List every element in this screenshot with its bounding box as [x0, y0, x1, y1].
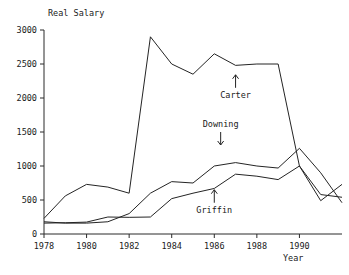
x-tick-label: 1982 [119, 241, 139, 251]
series-line-griffin [44, 166, 342, 223]
y-tick-label: 1000 [17, 161, 37, 171]
annotation-label-downing: Downing [203, 119, 239, 129]
y-tick-label: 3000 [17, 25, 37, 35]
x-tick-label: 1990 [289, 241, 309, 251]
y-tick-label: 500 [22, 195, 37, 205]
annotation-label-carter: Carter [220, 90, 251, 100]
x-tick-label: 1988 [247, 241, 267, 251]
x-axis-ticks: 1978198019821984198619881990 [34, 234, 310, 251]
x-tick-label: 1980 [76, 241, 96, 251]
x-tick-label: 1978 [34, 241, 54, 251]
data-series-group [44, 37, 342, 223]
y-axis-title: Real Salary [48, 8, 104, 18]
x-tick-label: 1984 [161, 241, 181, 251]
chart-container: 050010001500200025003000 197819801982198… [0, 0, 349, 275]
series-line-downing [44, 148, 342, 223]
annotation-group: CarterDowningGriffin [196, 75, 251, 215]
series-line-carter [44, 37, 342, 219]
y-tick-label: 1500 [17, 127, 37, 137]
y-axis-ticks: 050010001500200025003000 [17, 25, 44, 239]
annotation-label-griffin: Griffin [196, 205, 232, 215]
line-chart-plot: 050010001500200025003000 197819801982198… [0, 0, 349, 275]
x-tick-label: 1986 [204, 241, 224, 251]
x-axis-title: Year [283, 253, 303, 263]
y-tick-label: 2000 [17, 93, 37, 103]
y-tick-label: 0 [32, 229, 37, 239]
y-tick-label: 2500 [17, 59, 37, 69]
